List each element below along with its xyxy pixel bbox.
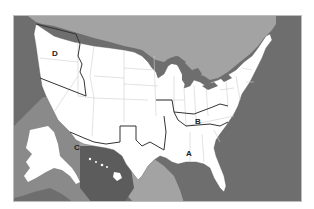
us-region-map: A B C D [13, 15, 302, 202]
region-label-a: A [186, 149, 192, 158]
region-label-b: B [195, 117, 201, 126]
region-label-c: C [74, 143, 80, 152]
region-label-d: D [52, 49, 58, 58]
